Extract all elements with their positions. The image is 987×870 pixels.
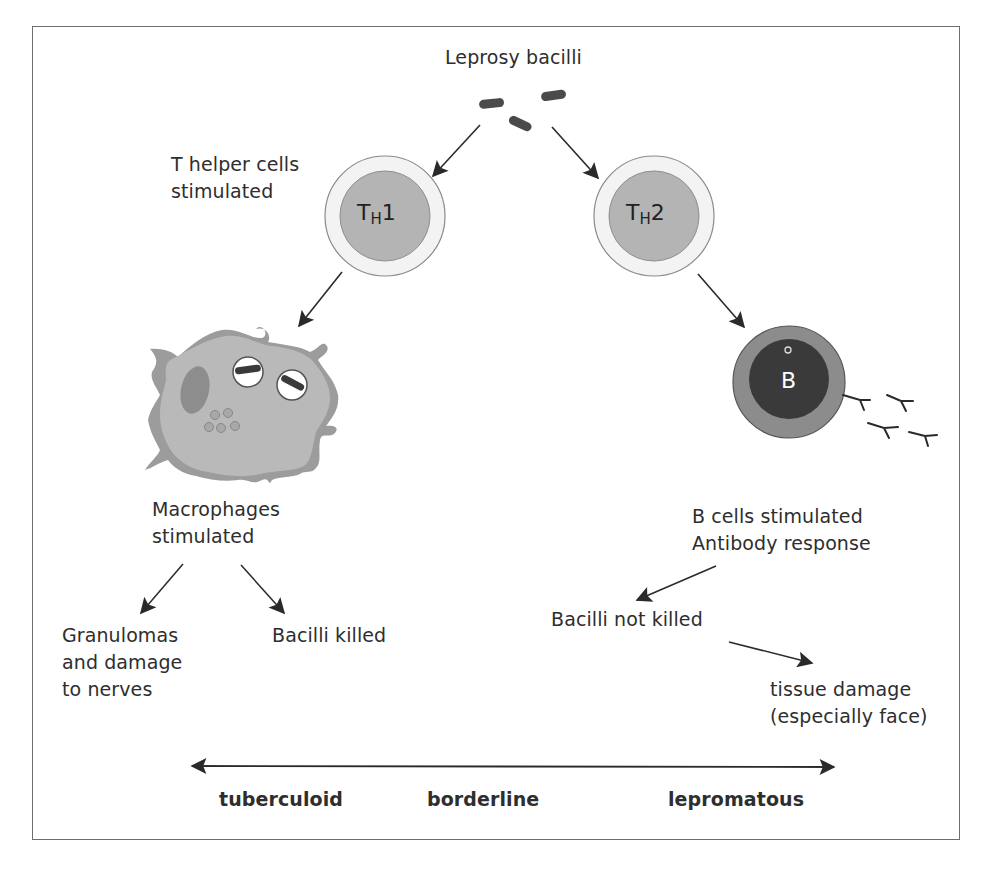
arrow-bacilli-to-th2	[552, 127, 598, 178]
label-tissue-damage-line2: (especially face)	[770, 703, 928, 729]
arrow-to-granulomas	[141, 564, 183, 613]
label-granulomas-line2: and damage	[62, 649, 182, 675]
antibody-icons	[843, 395, 937, 446]
b-cell-label: B	[781, 368, 796, 393]
label-b-cells-line2: Antibody response	[692, 530, 871, 556]
arrow-th2-to-bcell	[698, 274, 744, 327]
spectrum-borderline: borderline	[427, 786, 539, 812]
bacilli-icon	[479, 89, 567, 132]
spectrum-arrow	[192, 766, 834, 767]
label-macrophages-line1: Macrophages	[152, 496, 280, 522]
label-bacilli-not-killed: Bacilli not killed	[551, 606, 703, 632]
th1-label: TH1	[357, 200, 396, 228]
title-leprosy-bacilli: Leprosy bacilli	[445, 44, 582, 70]
diagram-canvas	[0, 0, 987, 870]
macrophage-icon	[145, 327, 338, 483]
th2-label: TH2	[626, 200, 665, 228]
label-b-cells-line1: B cells stimulated	[692, 503, 863, 529]
arrow-to-tissue-damage	[729, 642, 812, 663]
label-tissue-damage-line1: tissue damage	[770, 676, 911, 702]
label-granulomas-line1: Granulomas	[62, 622, 178, 648]
label-t-helper-line2: stimulated	[171, 178, 273, 204]
arrow-bacilli-to-th1	[433, 125, 480, 176]
arrow-to-bacilli-killed	[241, 565, 284, 613]
label-macrophages-line2: stimulated	[152, 523, 254, 549]
arrow-th1-to-macrophage	[299, 272, 342, 326]
arrow-to-bacilli-not-killed	[637, 566, 716, 600]
label-granulomas-line3: to nerves	[62, 676, 152, 702]
spectrum-tuberculoid: tuberculoid	[219, 786, 343, 812]
label-bacilli-killed: Bacilli killed	[272, 622, 386, 648]
spectrum-lepromatous: lepromatous	[668, 786, 804, 812]
label-t-helper-line1: T helper cells	[171, 151, 299, 177]
